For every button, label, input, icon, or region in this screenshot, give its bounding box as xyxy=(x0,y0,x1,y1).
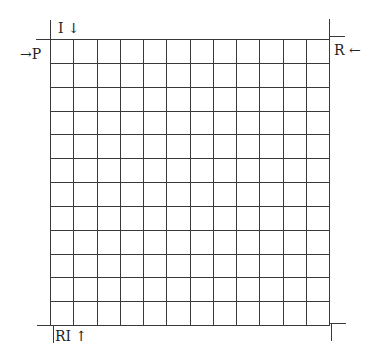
grid-horizontal-line xyxy=(50,301,330,302)
label-r: R ← xyxy=(334,43,361,57)
grid-horizontal-line xyxy=(50,325,330,326)
top-left-extension xyxy=(50,20,51,39)
bottom-right-v-extension xyxy=(331,323,332,341)
grid-horizontal-line xyxy=(50,63,330,64)
grid-horizontal-line xyxy=(50,277,330,278)
grid-horizontal-line xyxy=(50,111,330,112)
top-left-h-extension xyxy=(36,39,50,40)
bottom-left-v-extension xyxy=(53,325,54,343)
bottom-left-h-extension xyxy=(37,325,50,326)
grid-horizontal-line xyxy=(50,206,330,207)
grid-horizontal-line xyxy=(50,39,330,40)
label-p: →P xyxy=(20,47,41,61)
label-ri-up: RI ↑ xyxy=(55,329,87,343)
grid-horizontal-line xyxy=(50,87,330,88)
label-i-down: I ↓ xyxy=(58,21,80,35)
grid-horizontal-line xyxy=(50,182,330,183)
grid-horizontal-line xyxy=(50,254,330,255)
grid-horizontal-line xyxy=(50,134,330,135)
grid-horizontal-line xyxy=(50,230,330,231)
top-right-h-extension xyxy=(329,36,345,37)
grid-horizontal-line xyxy=(50,158,330,159)
